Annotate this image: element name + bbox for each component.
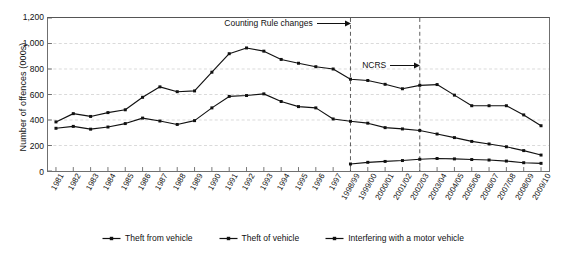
data-point-marker — [332, 68, 335, 71]
legend-label: Theft from vehicle — [125, 233, 193, 243]
legend-label: Interfering with a motor vehicle — [348, 233, 464, 243]
data-point-marker — [193, 89, 196, 92]
x-axis-tick-label: 1994 — [275, 172, 292, 192]
x-axis-tick-label: 1981 — [49, 172, 66, 192]
data-point-marker — [453, 136, 456, 139]
data-point-marker — [470, 104, 473, 107]
data-point-marker — [522, 113, 525, 116]
data-point-marker — [522, 149, 525, 152]
x-axis-tick-label: 1997 — [327, 172, 344, 192]
data-point-marker — [401, 159, 404, 162]
data-point-marker — [228, 95, 231, 98]
data-point-marker — [314, 106, 317, 109]
plot-area — [47, 17, 550, 172]
x-axis-tick-label: 1995 — [293, 172, 310, 192]
data-point-marker — [384, 126, 387, 129]
data-point-marker — [401, 127, 404, 130]
x-axis-tick-label: 1983 — [84, 172, 101, 192]
data-point-marker — [470, 140, 473, 143]
y-axis-tick-label: 400 — [4, 116, 44, 125]
data-point-marker — [245, 94, 248, 97]
data-point-marker — [89, 128, 92, 131]
data-point-marker — [106, 111, 109, 114]
x-axis-tick-label: 1993 — [258, 172, 275, 192]
legend-item-2[interactable]: Interfering with a motor vehicle — [325, 233, 464, 243]
data-point-marker — [349, 163, 352, 166]
data-point-marker — [54, 127, 57, 130]
x-axis-tick-label: 1989 — [188, 172, 205, 192]
data-point-marker — [401, 87, 404, 90]
x-axis-tick-label: 1987 — [153, 172, 170, 192]
legend-marker-icon — [102, 235, 121, 242]
y-axis-tick-label: 1,200 — [4, 13, 44, 22]
legend-item-1[interactable]: Theft of vehicle — [219, 233, 300, 243]
data-point-marker — [193, 119, 196, 122]
data-point-marker — [158, 85, 161, 88]
legend-label: Theft of vehicle — [242, 233, 300, 243]
data-point-marker — [540, 162, 543, 165]
data-point-marker — [436, 157, 439, 160]
data-point-marker — [228, 52, 231, 55]
data-point-marker — [210, 71, 213, 74]
annotation-arrow — [390, 61, 420, 70]
data-point-marker — [245, 46, 248, 49]
y-axis-tick-label: 200 — [4, 142, 44, 151]
x-axis-tick-labels: 1981198219831984198519861987198819891990… — [0, 172, 566, 230]
data-point-marker — [384, 83, 387, 86]
data-point-marker — [176, 123, 179, 126]
data-point-marker — [158, 120, 161, 123]
y-axis-tick-label: 800 — [4, 65, 44, 74]
y-axis-tick-label: 1,000 — [4, 39, 44, 48]
series-line-2 — [350, 159, 541, 164]
data-point-marker — [436, 133, 439, 136]
x-axis-tick-label: 1985 — [119, 172, 136, 192]
data-point-marker — [453, 94, 456, 97]
data-point-marker — [124, 108, 127, 111]
legend-item-0[interactable]: Theft from vehicle — [102, 233, 193, 243]
data-point-marker — [280, 100, 283, 103]
data-point-marker — [54, 120, 57, 123]
x-axis-tick-label: 1990 — [206, 172, 223, 192]
data-point-marker — [488, 104, 491, 107]
x-axis-tick-label: 1982 — [66, 172, 83, 192]
data-point-marker — [540, 124, 543, 127]
data-point-marker — [141, 96, 144, 99]
data-point-marker — [280, 58, 283, 61]
data-point-marker — [89, 115, 92, 118]
data-point-marker — [124, 122, 127, 125]
annotation-arrow — [317, 19, 351, 28]
data-point-marker — [210, 106, 213, 109]
data-point-marker — [505, 104, 508, 107]
data-point-marker — [366, 79, 369, 82]
data-point-marker — [505, 145, 508, 148]
legend-marker-icon — [219, 235, 238, 242]
data-point-marker — [418, 129, 421, 132]
chart-legend: Theft from vehicleTheft of vehicleInterf… — [0, 229, 566, 247]
data-point-marker — [349, 120, 352, 123]
data-point-marker — [262, 92, 265, 95]
y-axis-tick-label: 600 — [4, 91, 44, 100]
plot-svg — [48, 18, 549, 171]
data-point-marker — [453, 157, 456, 160]
x-axis-tick-label: 1996 — [310, 172, 327, 192]
data-point-marker — [488, 159, 491, 162]
legend-marker-icon — [325, 235, 344, 242]
x-axis-tick-label: 1986 — [136, 172, 153, 192]
data-point-marker — [540, 154, 543, 157]
data-point-marker — [418, 84, 421, 87]
data-point-marker — [72, 112, 75, 115]
x-axis-tick-label: 1984 — [101, 172, 118, 192]
data-point-marker — [349, 78, 352, 81]
data-point-marker — [106, 126, 109, 129]
data-point-marker — [297, 62, 300, 65]
data-point-marker — [262, 50, 265, 53]
data-point-marker — [297, 105, 300, 108]
data-point-marker — [436, 83, 439, 86]
data-point-marker — [314, 65, 317, 68]
data-point-marker — [141, 117, 144, 120]
data-point-marker — [332, 117, 335, 120]
data-point-marker — [72, 125, 75, 128]
data-point-marker — [522, 161, 525, 164]
data-point-marker — [384, 160, 387, 163]
x-axis-tick-label: 1991 — [223, 172, 240, 192]
